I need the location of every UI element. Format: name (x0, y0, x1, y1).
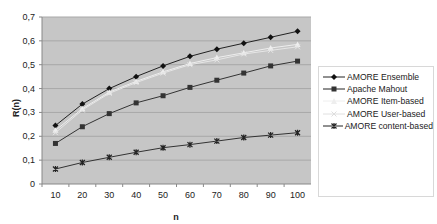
x-tick-label: 20 (77, 190, 87, 200)
y-tick-labels: 00,10,20,30,40,50,60,7 (22, 12, 35, 189)
x-tick-label: 90 (266, 190, 276, 200)
y-tick-label: 0,1 (22, 155, 35, 165)
y-axis-label: R(n) (11, 99, 21, 117)
x-tick-label: 80 (239, 190, 249, 200)
y-tick-label: 0,3 (22, 107, 35, 117)
legend-item-content-based: AMORE content-based (323, 120, 433, 132)
legend-label: Apache Mahout (347, 84, 407, 94)
x-tick-labels: 102030405060708090100 (50, 190, 305, 200)
x-tick-label: 40 (131, 190, 141, 200)
y-tick-label: 0,6 (22, 36, 35, 46)
y-tick-label: 0,5 (22, 60, 35, 70)
legend-item-mahout: Apache Mahout (323, 83, 433, 95)
x-tick-label: 100 (290, 190, 305, 200)
x-tick-label: 70 (212, 190, 222, 200)
legend-item-ensemble: AMORE Ensemble (323, 71, 433, 83)
legend-label: AMORE Item-based (347, 96, 424, 106)
x-marker-icon (323, 109, 345, 119)
star-marker-icon (323, 121, 343, 131)
x-tick-label: 30 (104, 190, 114, 200)
x-tick-label: 60 (185, 190, 195, 200)
legend-item-item-based: AMORE Item-based (323, 95, 433, 107)
square-marker-icon (323, 84, 345, 94)
y-tick-label: 0,2 (22, 131, 35, 141)
y-tick-label: 0,4 (22, 84, 35, 94)
legend-label: AMORE content-based (345, 121, 433, 131)
y-tick-label: 0 (30, 179, 35, 189)
y-tick-label: 0,7 (22, 12, 35, 22)
legend-label: AMORE User-based (347, 109, 425, 119)
x-tick-label: 50 (158, 190, 168, 200)
plot-area (42, 17, 311, 184)
diamond-marker-icon (323, 72, 345, 82)
legend-item-user-based: AMORE User-based (323, 108, 433, 120)
triangle-marker-icon (323, 96, 345, 106)
legend: AMORE Ensemble Apache Mahout AMORE Item-… (318, 66, 434, 197)
x-tick-label: 10 (50, 190, 60, 200)
x-axis-label: n (173, 212, 179, 222)
legend-label: AMORE Ensemble (347, 72, 419, 82)
